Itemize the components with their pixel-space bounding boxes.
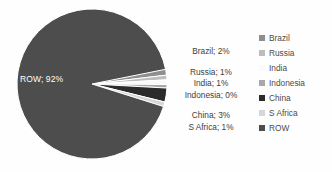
legend-label: Indonesia (269, 78, 305, 88)
legend-label: Russia (269, 48, 294, 58)
legend-label: S Africa (269, 108, 298, 118)
data-label-column: Brazil; 2% Russia; 1% India; 1% Indonesi… (163, 46, 259, 134)
legend-label: Brazil (269, 33, 290, 43)
legend-item-row[interactable]: ROW (259, 120, 331, 135)
data-label-brazil: Brazil; 2% (163, 46, 259, 58)
legend-swatch-icon (259, 80, 265, 86)
legend-item-indonesia[interactable]: Indonesia (259, 75, 331, 90)
legend-item-china[interactable]: China (259, 90, 331, 105)
legend-swatch-icon (259, 125, 265, 131)
legend-swatch-icon (259, 50, 265, 56)
legend-item-india[interactable]: India (259, 60, 331, 75)
legend-swatch-icon (259, 35, 265, 41)
data-label-russia: Russia; 1% (163, 67, 259, 79)
slice-label-row: ROW; 92% (20, 74, 63, 84)
legend-item-brazil[interactable]: Brazil (259, 30, 331, 45)
legend-swatch-icon (259, 65, 265, 71)
data-label-china: China; 3% (163, 110, 259, 122)
data-label-indonesia: Indonesia; 0% (163, 90, 259, 102)
chart-legend: Brazil Russia India Indonesia China S Af… (259, 30, 331, 135)
legend-swatch-icon (259, 110, 265, 116)
legend-label: India (269, 63, 287, 73)
legend-item-s-africa[interactable]: S Africa (259, 105, 331, 120)
data-label-india: India; 1% (163, 78, 259, 90)
pie-slice-group (17, 9, 167, 159)
pie-plot-area: ROW; 92% (0, 0, 180, 172)
legend-label: China (269, 93, 291, 103)
legend-label: ROW (269, 123, 289, 133)
data-label-s-africa: S Africa; 1% (163, 122, 259, 134)
pie-svg (0, 0, 180, 172)
pie-chart: ROW; 92% Brazil; 2% Russia; 1% India; 1%… (0, 0, 332, 172)
legend-swatch-icon (259, 95, 265, 101)
legend-item-russia[interactable]: Russia (259, 45, 331, 60)
